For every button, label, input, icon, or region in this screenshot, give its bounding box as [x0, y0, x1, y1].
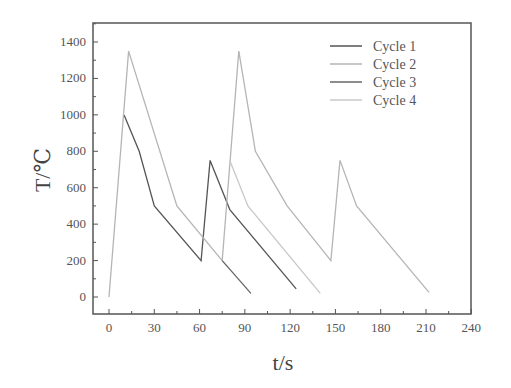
legend-label: Cycle 4	[373, 93, 416, 108]
y-tick-label: 600	[67, 180, 87, 195]
legend-label: Cycle 3	[373, 75, 416, 90]
y-tick-label: 200	[67, 253, 87, 268]
legend-label: Cycle 2	[373, 57, 416, 72]
x-axis-title: t/s	[273, 350, 294, 375]
y-tick-label: 1400	[60, 34, 86, 49]
legend: Cycle 1Cycle 2Cycle 3Cycle 4	[330, 39, 416, 108]
line-chart: 0306090120150180210240 02004006008001000…	[0, 0, 511, 388]
x-tick-label: 180	[371, 320, 391, 335]
x-tick-label: 30	[148, 320, 161, 335]
y-tick-label: 400	[67, 216, 87, 231]
x-tick-label: 240	[462, 320, 482, 335]
x-tick-label: 60	[193, 320, 206, 335]
x-tick-label: 0	[106, 320, 113, 335]
y-tick-label: 800	[67, 143, 87, 158]
series-line-cycle-4	[230, 160, 320, 293]
x-axis: 0306090120150180210240	[106, 309, 481, 335]
legend-label: Cycle 1	[373, 39, 416, 54]
y-tick-label: 0	[80, 289, 87, 304]
y-tick-label: 1200	[60, 70, 86, 85]
x-tick-label: 210	[416, 320, 436, 335]
x-tick-label: 150	[326, 320, 346, 335]
y-axis-title: T/℃	[30, 148, 55, 192]
y-tick-label: 1000	[60, 107, 86, 122]
x-tick-label: 120	[280, 320, 300, 335]
series-line-cycle-1	[124, 115, 296, 289]
series-line-cycle-3	[222, 261, 251, 294]
x-tick-label: 90	[238, 320, 251, 335]
